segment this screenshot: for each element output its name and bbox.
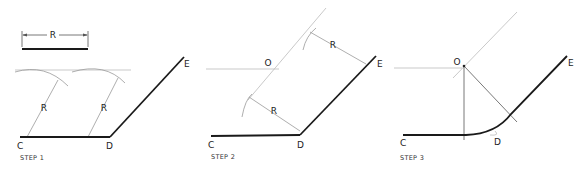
point-d-label: D — [494, 137, 501, 147]
construction-arc — [15, 69, 68, 86]
fillet-construction-diagram: R R R C D E STEP 1 R R O C D E STEP 2 — [0, 0, 581, 171]
point-d-label: D — [297, 140, 304, 150]
radius-label: R — [41, 103, 47, 113]
point-o-label: O — [453, 57, 460, 67]
parallel-construction-line — [248, 8, 326, 100]
radius-line — [310, 32, 366, 64]
given-radius-label: R — [50, 30, 56, 40]
step-3-panel: O C D E STEP 3 — [394, 12, 574, 162]
given-radius-dimension: R — [22, 30, 88, 49]
step-3-label: STEP 3 — [400, 154, 424, 162]
line-de — [110, 57, 184, 137]
step-2-panel: R R O C D E STEP 2 — [206, 8, 383, 161]
perpendicular-to-de — [464, 66, 517, 122]
parallel-construction-line — [453, 12, 517, 78]
point-c-label: C — [400, 138, 406, 148]
point-d-label: D — [106, 141, 113, 151]
construction-arc — [303, 28, 316, 50]
point-o-label: O — [264, 58, 271, 68]
point-c-label: C — [208, 140, 214, 150]
radius-label: R — [271, 106, 277, 116]
construction-arc — [72, 69, 125, 83]
point-e-label: E — [377, 59, 383, 69]
construction-arc — [490, 131, 497, 135]
point-e-label: E — [184, 59, 190, 69]
line-cd — [211, 135, 300, 136]
step-1-panel: R R R C D E STEP 1 — [15, 30, 190, 162]
point-e-label: E — [568, 58, 574, 68]
point-c-label: C — [17, 141, 23, 151]
radius-label: R — [101, 103, 107, 113]
line-de — [300, 56, 376, 135]
step-2-label: STEP 2 — [211, 153, 235, 161]
radius-label: R — [330, 40, 336, 50]
center-point-o — [463, 65, 466, 68]
diagram-canvas: R R R C D E STEP 1 R R O C D E STEP 2 — [0, 0, 581, 171]
step-1-label: STEP 1 — [20, 154, 44, 162]
